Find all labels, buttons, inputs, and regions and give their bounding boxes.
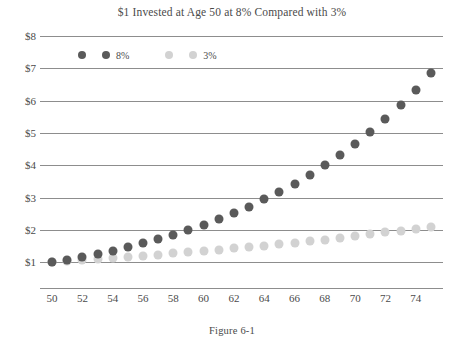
data-point	[229, 209, 238, 218]
x-tick-label: 54	[107, 292, 118, 304]
data-point	[351, 231, 360, 240]
gridline	[40, 68, 443, 69]
y-tick-label: $5	[6, 127, 36, 139]
data-point	[426, 222, 435, 231]
legend-entry: 3%	[165, 50, 216, 61]
x-tick-label: 58	[168, 292, 179, 304]
data-point	[305, 170, 314, 179]
data-point	[396, 226, 405, 235]
x-tick-label: 74	[410, 292, 421, 304]
x-axis-line	[40, 288, 443, 289]
data-point	[275, 188, 284, 197]
data-point	[48, 258, 57, 267]
gridline	[40, 165, 443, 166]
data-point	[123, 252, 132, 261]
data-point	[275, 240, 284, 249]
data-point	[199, 247, 208, 256]
data-point	[245, 242, 254, 251]
legend-swatch-icon	[189, 51, 197, 59]
data-point	[411, 85, 420, 94]
y-axis: $1$2$3$4$5$6$7$8	[0, 36, 36, 288]
data-point	[290, 179, 299, 188]
chart-legend: 8%3%	[78, 47, 217, 63]
data-point	[93, 249, 102, 258]
y-tick-label: $7	[6, 62, 36, 74]
y-tick-label: $3	[6, 192, 36, 204]
data-point	[139, 239, 148, 248]
data-point	[260, 195, 269, 204]
data-point	[320, 161, 329, 170]
plot-area	[40, 36, 443, 288]
x-tick-label: 62	[228, 292, 239, 304]
chart-title: $1 Invested at Age 50 at 8% Compared wit…	[0, 6, 464, 18]
y-tick-label: $2	[6, 224, 36, 236]
legend-swatch-icon	[102, 51, 110, 59]
y-tick-label: $4	[6, 159, 36, 171]
data-point	[290, 238, 299, 247]
data-point	[123, 242, 132, 251]
x-tick-label: 66	[289, 292, 300, 304]
data-point	[366, 127, 375, 136]
y-tick-label: $1	[6, 256, 36, 268]
data-point	[154, 235, 163, 244]
x-tick-label: 68	[319, 292, 330, 304]
x-tick-label: 50	[47, 292, 58, 304]
data-point	[139, 252, 148, 261]
data-point	[335, 150, 344, 159]
data-point	[411, 224, 420, 233]
x-tick-label: 60	[198, 292, 209, 304]
data-point	[184, 248, 193, 257]
gridline	[40, 36, 443, 37]
gridline	[40, 101, 443, 102]
data-point	[214, 215, 223, 224]
data-point	[381, 228, 390, 237]
data-point	[229, 244, 238, 253]
legend-label: 8%	[116, 50, 129, 61]
y-tick-label: $6	[6, 95, 36, 107]
data-point	[335, 233, 344, 242]
data-point	[245, 202, 254, 211]
gridline	[40, 198, 443, 199]
x-tick-label: 52	[77, 292, 88, 304]
data-point	[184, 225, 193, 234]
data-point	[396, 100, 405, 109]
data-point	[305, 237, 314, 246]
data-point	[154, 250, 163, 259]
data-point	[169, 230, 178, 239]
data-point	[108, 246, 117, 255]
gridline	[40, 133, 443, 134]
legend-label: 3%	[203, 50, 216, 61]
x-tick-label: 56	[138, 292, 149, 304]
legend-entry: 8%	[78, 50, 129, 61]
legend-swatch-icon	[165, 51, 173, 59]
data-point	[260, 241, 269, 250]
data-point	[214, 245, 223, 254]
x-tick-label: 72	[380, 292, 391, 304]
data-point	[426, 69, 435, 78]
data-point	[381, 114, 390, 123]
legend-swatch-icon	[78, 51, 86, 59]
data-point	[320, 235, 329, 244]
figure-caption: Figure 6-1	[0, 325, 464, 336]
data-point	[199, 220, 208, 229]
data-point	[351, 139, 360, 148]
data-point	[78, 252, 87, 261]
x-tick-label: 64	[259, 292, 270, 304]
data-point	[63, 255, 72, 264]
x-axis: 50525456586062646668707274	[40, 292, 443, 312]
data-point	[169, 249, 178, 258]
y-tick-label: $8	[6, 30, 36, 42]
figure-container: $1 Invested at Age 50 at 8% Compared wit…	[0, 0, 464, 360]
data-point	[366, 230, 375, 239]
x-tick-label: 70	[350, 292, 361, 304]
